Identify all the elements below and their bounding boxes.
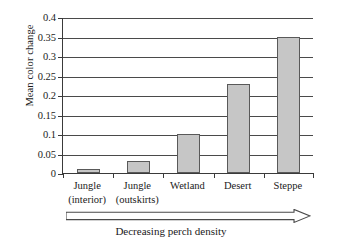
x-axis-category-label: Desert [213,179,263,193]
bar-chart-figure: Mean color change 00.050.10.150.20.250.3… [0,0,342,248]
gridline [63,18,313,19]
bar-wetland [177,134,200,173]
y-axis-tick [58,96,63,97]
x-axis-tick [214,173,215,178]
y-axis-tick-label: 0.3 [43,52,56,63]
x-axis-category-label: Steppe [263,179,313,193]
x-axis-caption: Decreasing perch density [0,225,342,237]
y-axis-tick-label: 0.25 [38,71,56,82]
category-label-line: (interior) [62,193,112,207]
x-axis-tick [264,173,265,178]
x-axis-tick [313,173,314,178]
category-label-line: Steppe [263,179,313,193]
y-axis-tick-label: 0.15 [38,110,56,121]
gridline [63,96,313,97]
x-axis-category-labels: Jungle(interior)Jungle(outskirts)Wetland… [62,179,313,213]
category-label-line: Desert [213,179,263,193]
category-label-line: Jungle [62,179,112,193]
bar-desert [227,84,250,173]
gridline [63,77,313,78]
bar-steppe [277,37,300,174]
gridline [63,116,313,117]
y-axis-tick-label: 0 [51,169,56,180]
bar-jungle-outskirts [127,161,150,173]
plot-area: 00.050.10.150.20.250.30.350.4 [62,18,313,174]
x-axis-tick [163,173,164,178]
y-axis-tick [58,57,63,58]
y-axis-tick [58,77,63,78]
y-axis-tick [58,18,63,19]
category-label-line: (outskirts) [112,193,162,207]
gridline [63,57,313,58]
x-axis-category-label: Jungle(interior) [62,179,112,206]
y-axis-tick [58,155,63,156]
x-axis-category-label: Wetland [162,179,212,193]
x-axis-category-label: Jungle(outskirts) [112,179,162,206]
y-axis-tick [58,38,63,39]
category-label-line: Wetland [162,179,212,193]
y-axis-tick [58,135,63,136]
y-axis-tick [58,116,63,117]
y-axis-title: Mean color change [24,0,35,146]
y-axis-tick-label: 0.35 [38,32,56,43]
x-axis-tick [63,173,64,178]
y-axis-tick-label: 0.1 [43,130,56,141]
x-axis-tick [113,173,114,178]
y-axis-tick-label: 0.4 [43,13,56,24]
bar-jungle-interior [77,169,100,173]
decreasing-perch-density-arrow-icon [66,209,311,223]
y-axis-tick-label: 0.05 [38,149,56,160]
y-axis-tick-label: 0.2 [43,91,56,102]
gridline [63,38,313,39]
category-label-line: Jungle [112,179,162,193]
